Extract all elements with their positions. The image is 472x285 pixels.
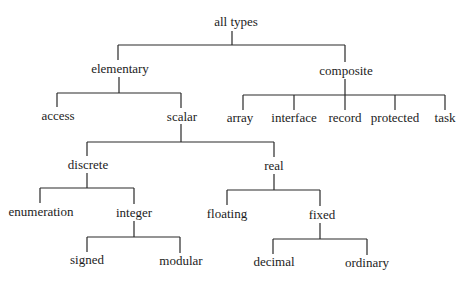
- node-composite: composite: [319, 63, 373, 78]
- node-fixed: fixed: [309, 207, 336, 222]
- connector-composite: [243, 79, 445, 110]
- node-integer: integer: [116, 205, 153, 220]
- node-enumeration: enumeration: [9, 204, 74, 219]
- node-all-types: all types: [214, 14, 258, 29]
- node-interface: interface: [271, 110, 317, 125]
- node-protected: protected: [371, 110, 420, 125]
- node-scalar: scalar: [167, 109, 198, 124]
- node-real: real: [264, 158, 284, 173]
- connector-discrete: [40, 173, 134, 204]
- node-ordinary: ordinary: [345, 255, 390, 270]
- node-access: access: [41, 108, 74, 123]
- connector-scalar: [87, 124, 274, 157]
- node-elementary: elementary: [91, 61, 149, 76]
- connector-elementary: [57, 77, 181, 108]
- type-hierarchy-tree: all types elementary composite access sc…: [0, 0, 472, 285]
- node-signed: signed: [70, 252, 104, 267]
- connector-integer: [87, 221, 180, 253]
- connector-real: [227, 174, 320, 206]
- node-array: array: [227, 110, 254, 125]
- node-discrete: discrete: [68, 157, 109, 172]
- node-task: task: [435, 110, 456, 125]
- node-floating: floating: [207, 206, 248, 221]
- node-record: record: [328, 110, 362, 125]
- connector-root: [118, 31, 345, 62]
- node-modular: modular: [159, 253, 203, 268]
- connector-fixed: [273, 223, 367, 255]
- node-decimal: decimal: [253, 254, 295, 269]
